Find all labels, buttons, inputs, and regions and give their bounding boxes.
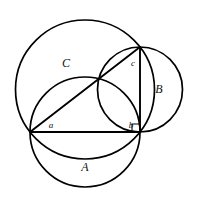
- triangle-edge-hypotenuse: [30, 47, 140, 132]
- vertex-label-a: a: [49, 120, 54, 130]
- circle-label-c: C: [62, 56, 71, 70]
- vertex-label-b: b: [129, 120, 134, 130]
- geometry-figure: C B A a b c: [0, 0, 200, 214]
- vertex-label-c: c: [131, 58, 135, 68]
- circle-label-b: B: [155, 82, 163, 96]
- circle-label-a: A: [80, 160, 89, 174]
- figure-canvas: C B A a b c: [0, 0, 200, 214]
